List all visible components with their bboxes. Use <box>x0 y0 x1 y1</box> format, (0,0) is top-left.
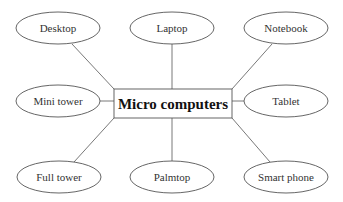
node-label: Full tower <box>36 171 82 183</box>
mind-map-diagram: DesktopLaptopNotebookMini towerTabletFul… <box>0 0 343 202</box>
node-label: Smart phone <box>258 171 314 183</box>
node-mini-tower: Mini tower <box>16 85 100 117</box>
node-label: Laptop <box>156 22 188 34</box>
node-palmtop: Palmtop <box>130 161 214 193</box>
node-notebook: Notebook <box>244 12 328 44</box>
node-label: Tablet <box>272 95 299 107</box>
center-node: Micro computers <box>114 89 232 118</box>
node-label: Mini tower <box>33 95 83 107</box>
node-label: Notebook <box>264 22 308 34</box>
edge-smart-phone <box>232 118 270 162</box>
node-laptop: Laptop <box>130 12 214 44</box>
center-label: Micro computers <box>118 96 228 112</box>
node-label: Palmtop <box>154 171 191 183</box>
edge-desktop <box>72 44 114 89</box>
node-desktop: Desktop <box>16 12 100 44</box>
edge-full-tower <box>74 118 114 162</box>
node-full-tower: Full tower <box>17 161 101 193</box>
node-tablet: Tablet <box>244 85 328 117</box>
node-smart-phone: Smart phone <box>244 161 328 193</box>
edge-notebook <box>232 44 272 89</box>
node-label: Desktop <box>40 22 77 34</box>
